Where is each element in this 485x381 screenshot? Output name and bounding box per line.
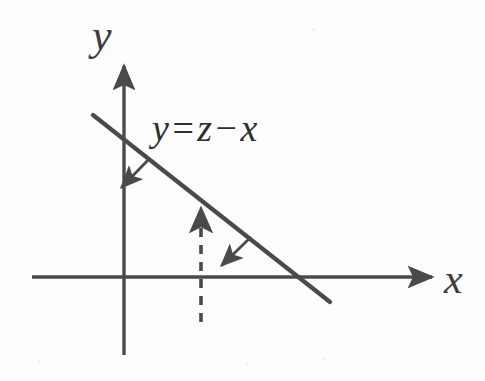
line-equation-label: y=z−x: [152, 106, 258, 150]
equation-lhs: y: [152, 107, 169, 149]
diagram-svg: [0, 0, 485, 381]
x-axis-label: x: [444, 258, 463, 300]
equation-rhs-first: z: [197, 107, 212, 149]
equation-equals: =: [169, 107, 197, 149]
upper-gradient-arrow: [121, 158, 150, 187]
lower-gradient-arrow: [222, 237, 251, 266]
equation-minus: −: [213, 107, 241, 149]
equation-rhs-second: x: [241, 107, 258, 149]
figure-canvas: y x y=z−x: [0, 0, 485, 381]
y-axis-label: y: [92, 14, 112, 58]
